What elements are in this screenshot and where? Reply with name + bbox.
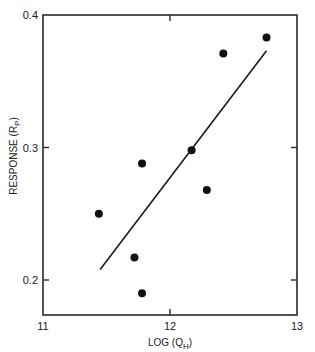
scatter-chart: 1112130.20.30.4 LOG (QH) RESPONSE (RP) (0, 0, 315, 352)
data-point (263, 34, 271, 42)
x-tick-label: 12 (164, 320, 176, 332)
x-tick-label: 13 (291, 320, 303, 332)
data-point (219, 49, 227, 57)
data-point (188, 146, 196, 154)
data-point (203, 186, 211, 194)
y-tick-label: 0.4 (23, 9, 38, 21)
y-tick-label: 0.3 (23, 142, 38, 154)
y-axis-label: RESPONSE (RP) (8, 117, 22, 195)
data-point (138, 159, 146, 167)
y-tick-label: 0.2 (23, 274, 38, 286)
x-tick-label: 11 (37, 320, 48, 332)
data-point (130, 253, 138, 261)
data-point (95, 210, 103, 218)
regression-line (100, 51, 266, 270)
x-axis-label: LOG (QH) (148, 337, 192, 351)
data-point (138, 289, 146, 297)
data-points (95, 34, 271, 298)
